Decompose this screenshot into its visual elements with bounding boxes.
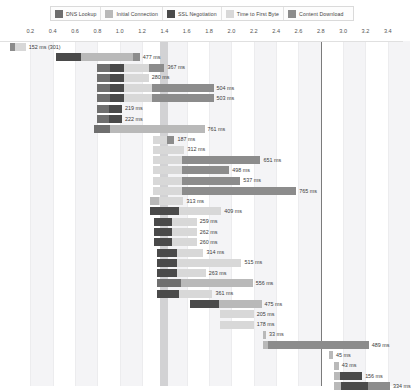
request-bar[interactable] [97,115,122,123]
request-row[interactable]: 765 ms [0,187,403,195]
request-row[interactable]: 187 ms [0,136,403,144]
request-bar[interactable] [263,331,266,339]
request-row[interactable]: 761 ms [0,125,403,133]
request-segment [110,74,125,82]
axis-tick-label: 3.0 [339,28,347,34]
request-bar[interactable] [157,249,204,257]
request-row[interactable]: 178 ms [0,321,403,329]
request-row[interactable]: 515 ms [0,259,403,267]
request-row[interactable]: 367 ms [0,64,403,72]
request-bar[interactable] [157,279,253,287]
request-bar[interactable] [150,197,183,205]
request-row[interactable]: 263 ms [0,269,403,277]
axis-tick-label: 1.4 [161,28,169,34]
request-row[interactable]: 537 ms [0,177,403,185]
request-segment [97,64,109,72]
chart-legend: DNS LookupInitial ConnectionSSL Negotiat… [50,6,354,21]
request-row[interactable]: 489 ms [0,341,403,349]
request-segment [368,382,390,390]
request-segment [124,84,152,92]
request-segment [154,228,172,236]
request-row[interactable]: 260 ms [0,238,403,246]
request-duration-label: 187 ms [177,136,195,143]
request-bar[interactable] [97,105,122,113]
request-bar[interactable] [157,290,213,298]
request-segment [153,187,182,195]
request-bar[interactable] [153,187,296,195]
request-bar[interactable] [153,177,240,185]
request-bar[interactable] [153,146,184,154]
request-segment [152,84,213,92]
swatch-icon [288,10,296,18]
request-bar[interactable] [157,259,242,267]
request-row[interactable]: 475 ms [0,300,403,308]
legend-item-4[interactable]: Content Download [284,7,347,20]
request-segment [220,321,254,329]
axis-tick-label: 0.4 [49,28,57,34]
request-row[interactable]: 503 ms [0,94,403,102]
request-bar[interactable] [97,84,213,92]
request-bar[interactable] [329,351,333,359]
request-row[interactable]: 314 ms [0,249,403,257]
request-row[interactable]: 504 ms [0,84,403,92]
request-row[interactable]: 152 ms (301) [0,43,403,51]
request-duration-label: 312 ms [188,146,206,153]
request-row[interactable]: 205 ms [0,310,403,318]
request-bar[interactable] [153,156,260,164]
request-segment [153,136,166,144]
request-bar[interactable] [97,64,164,72]
request-bar[interactable] [153,136,174,144]
request-segment [110,125,205,133]
request-bar[interactable] [154,228,196,236]
request-row[interactable]: 361 ms [0,290,403,298]
legend-item-3[interactable]: Time to First Byte [222,7,284,20]
request-bar[interactable] [220,310,254,318]
request-segment [167,136,175,144]
legend-item-1[interactable]: Initial Connection [101,7,163,20]
request-row[interactable]: 219 ms [0,105,403,113]
request-bar[interactable] [97,94,213,102]
request-bar[interactable] [10,43,26,51]
request-row[interactable]: 556 ms [0,279,403,287]
request-bar[interactable] [334,382,390,390]
request-row[interactable]: 262 ms [0,228,403,236]
request-bar[interactable] [157,269,206,277]
request-row[interactable]: 334 ms [0,382,403,390]
request-row[interactable]: 156 ms [0,372,403,380]
request-row[interactable]: 477 ms [0,53,403,61]
request-bar[interactable] [153,166,229,174]
request-row[interactable]: 43 ms [0,362,403,370]
request-bar[interactable] [154,218,196,226]
request-segment [179,207,221,215]
request-row[interactable]: 33 ms [0,331,403,339]
request-bar[interactable] [190,300,261,308]
request-row[interactable]: 280 ms [0,74,403,82]
request-bar[interactable] [94,125,205,133]
request-row[interactable]: 222 ms [0,115,403,123]
request-bar[interactable] [97,74,148,82]
request-duration-label: 45 ms [336,352,351,359]
request-bar[interactable] [56,53,140,61]
request-row[interactable]: 409 ms [0,207,403,215]
axis-tick-label: 1.8 [205,28,213,34]
request-bar[interactable] [263,341,369,349]
request-bar[interactable] [334,372,362,380]
request-bar[interactable] [334,362,338,370]
request-segment [182,156,260,164]
legend-item-0[interactable]: DNS Lookup [51,7,101,20]
request-segment [268,341,369,349]
request-row[interactable]: 45 ms [0,351,403,359]
request-duration-label: 489 ms [372,342,390,349]
request-segment [329,351,333,359]
request-row[interactable]: 651 ms [0,156,403,164]
request-row[interactable]: 313 ms [0,197,403,205]
axis-tick-label: 2.4 [272,28,280,34]
request-bar[interactable] [220,321,254,329]
request-row[interactable]: 498 ms [0,166,403,174]
request-bar[interactable] [154,238,196,246]
request-row[interactable]: 259 ms [0,218,403,226]
request-bar[interactable] [150,207,221,215]
request-row[interactable]: 312 ms [0,146,403,154]
request-segment [110,64,125,72]
legend-item-2[interactable]: SSL Negotiation [163,7,222,20]
